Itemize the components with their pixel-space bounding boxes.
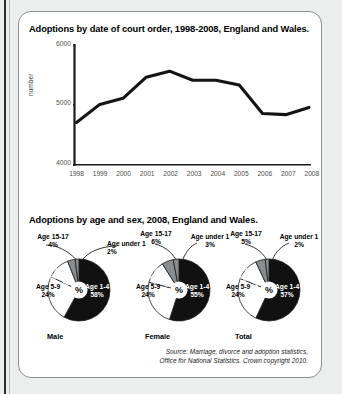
x-tick-1998: 1998 [69, 170, 84, 177]
pie-female-label-age-1-4-pct: 55% [185, 291, 209, 299]
source-line-2: Office for National Statistics. Crown co… [98, 357, 308, 366]
x-tick-2002: 2002 [163, 170, 178, 177]
pie-total-name: Total [235, 332, 252, 341]
line-chart: number 6000 5000 4000 1998 1999 2000 200… [29, 40, 313, 205]
pie-chart-male: % Age 15-17 4% Age under 1 2% Age 1-4 58… [31, 228, 131, 350]
pie-male-label-age-15-17-pct: 4% [27, 241, 79, 249]
y-tick-5000: 5000 [56, 99, 71, 106]
pie-total-label-age-1-4-pct: 57% [275, 291, 299, 299]
page-left-hairline [9, 0, 10, 394]
pie-male-label-age-1-4-text: Age 1-4 [85, 283, 109, 290]
pie-female-label-age-5-9-pct: 24% [136, 291, 160, 299]
pie-female-label-age-15-17: Age 15-17 6% [130, 230, 182, 245]
pie-male-label-age-5-9-pct: 24% [36, 291, 60, 299]
pie-female-center-label: % [175, 285, 183, 295]
x-tick-2006: 2006 [257, 170, 272, 177]
x-tick-2005: 2005 [234, 170, 249, 177]
pie-total-label-age-1-4-text: Age 1-4 [275, 283, 299, 290]
line-chart-plot [73, 44, 311, 166]
figure-card: Adoptions by date of court order, 1998-2… [18, 11, 322, 378]
x-tick-2004: 2004 [210, 170, 225, 177]
pie-female-label-age-1-4-text: Age 1-4 [185, 283, 209, 290]
x-tick-1999: 1999 [93, 170, 108, 177]
adoptions-series-line [77, 71, 310, 122]
pie-female-label-age-15-17-pct: 6% [130, 238, 182, 246]
x-tick-2000: 2000 [116, 170, 131, 177]
x-tick-2007: 2007 [281, 170, 296, 177]
pie-female-label-age-1-4: Age 1-4 55% [185, 283, 209, 298]
pie-female-leader-15-17 [155, 244, 176, 260]
pie-total-label-age-15-17-pct: 5% [220, 238, 272, 246]
pie-male-label-age-15-17: Age 15-17 4% [27, 233, 79, 248]
pie-total-leader-15-17 [245, 244, 267, 260]
pie-male-label-age-15-17-text: Age 15-17 [37, 233, 69, 240]
y-tick-6000: 6000 [56, 40, 71, 47]
x-tick-2008: 2008 [304, 170, 319, 177]
pie-total-label-age-15-17: Age 15-17 5% [220, 230, 272, 245]
y-axis-ticks: 6000 5000 4000 [37, 40, 71, 190]
pie-female-label-age-15-17-text: Age 15-17 [140, 230, 172, 237]
x-axis-ticks: 1998 1999 2000 2001 2002 2003 2004 2005 … [73, 170, 313, 186]
pie-chart-total: % Age 15-17 5% Age under 1 2% Age 1-4 57… [221, 228, 321, 350]
pie-total-label-age-under-1-pct: 2% [277, 241, 321, 249]
x-tick-2001: 2001 [140, 170, 155, 177]
pie-charts-title: Adoptions by age and sex, 2008, England … [29, 215, 258, 225]
pie-male-center-label: % [75, 285, 83, 295]
pie-total-label-age-1-4: Age 1-4 57% [275, 283, 299, 298]
pie-total-label-age-5-9-pct: 24% [226, 291, 250, 299]
page-left-rule [4, 0, 6, 394]
line-chart-title: Adoptions by date of court order, 1998-2… [29, 24, 309, 34]
pie-male-label-age-1-4: Age 1-4 58% [85, 283, 109, 298]
source-line-1: Source: Marriage, divorce and adoption s… [98, 348, 308, 357]
pie-total-label-age-under-1: Age under 1 2% [277, 233, 321, 248]
pie-total-label-age-15-17-text: Age 15-17 [230, 230, 262, 237]
pie-chart-female: % Age 15-17 6% Age under 1 3% Age 1-4 55… [131, 228, 231, 350]
pie-male-label-age-1-4-pct: 58% [85, 291, 109, 299]
y-axis-label: number [27, 74, 34, 96]
pie-chart-row: % Age 15-17 4% Age under 1 2% Age 1-4 58… [25, 228, 317, 350]
x-tick-2003: 2003 [187, 170, 202, 177]
pie-female-name: Female [145, 332, 170, 341]
pie-male-name: Male [47, 332, 63, 341]
pie-total-label-age-under-1-text: Age under 1 [280, 233, 319, 240]
y-tick-4000: 4000 [56, 159, 71, 166]
pie-total-center-label: % [265, 285, 273, 295]
source-note: Source: Marriage, divorce and adoption s… [98, 348, 308, 366]
